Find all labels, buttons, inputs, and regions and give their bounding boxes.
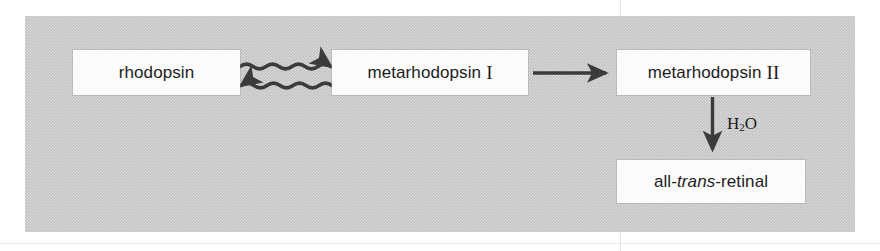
- node-metarhodopsin-i-numeral: I: [481, 62, 492, 84]
- retinal-suffix: -retinal: [715, 172, 768, 192]
- node-metarhodopsin-ii-label: metarhodopsin: [648, 63, 762, 83]
- node-rhodopsin: rhodopsin: [73, 50, 240, 95]
- figure-root: H2O rhodopsin metarhodopsinI metarhodops…: [0, 0, 880, 251]
- retinal-stereo-descriptor: trans: [677, 172, 715, 192]
- water-label: H2O: [727, 114, 757, 134]
- node-rhodopsin-label: rhodopsin: [119, 63, 195, 83]
- water-label-element: H: [727, 114, 739, 133]
- node-metarhodopsin-i-label: metarhodopsin: [367, 63, 481, 83]
- node-metarhodopsin-i: metarhodopsinI: [332, 50, 528, 95]
- node-metarhodopsin-ii: metarhodopsinII: [617, 50, 810, 95]
- retinal-prefix: all-: [654, 172, 677, 192]
- water-label-oxygen: O: [745, 114, 757, 133]
- node-all-trans-retinal: all-trans-retinal: [617, 160, 805, 203]
- node-metarhodopsin-ii-numeral: II: [761, 62, 779, 84]
- scan-seam-bottom: [0, 243, 880, 244]
